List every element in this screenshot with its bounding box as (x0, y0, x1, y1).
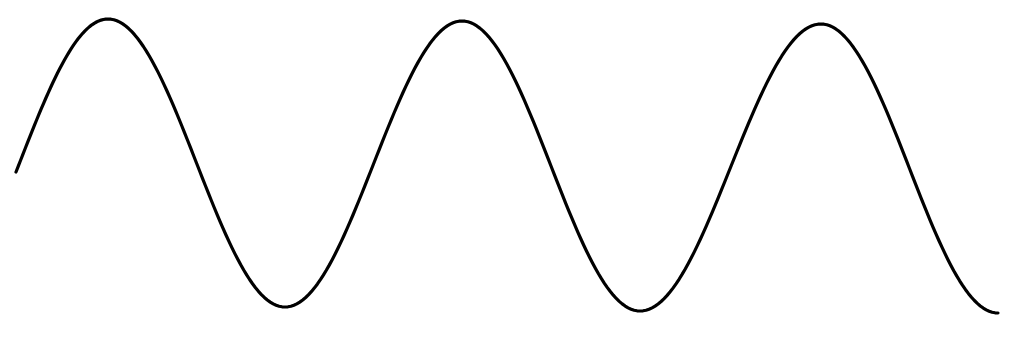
sine-wave-diagram: Sine wave (0, 0, 1017, 337)
wave-svg (0, 0, 1017, 337)
sine-wave-curve (16, 19, 998, 313)
